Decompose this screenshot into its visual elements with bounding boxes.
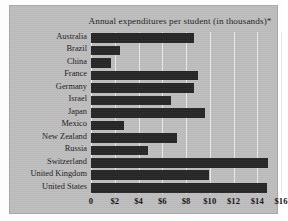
x-tick-label: 0 [89,196,93,206]
bar [91,133,177,143]
bar [91,146,148,156]
bar-row: Mexico [91,119,281,131]
category-label: United Kingdom [30,168,87,180]
category-label: United States [42,181,87,193]
bar [91,33,194,43]
bar-row: Brazil [91,44,281,56]
category-label: Australia [56,31,87,43]
chart-figure: Annual expenditures per student (in thou… [0,0,285,221]
category-label: France [64,68,87,80]
category-label: Israel [68,93,87,105]
x-tick-label: $12 [227,196,240,206]
bar-row: Australia [91,32,281,44]
category-label: Mexico [61,118,87,130]
bar [91,170,209,180]
category-label: Japan [68,106,87,118]
category-label: China [67,56,87,68]
bar [91,71,198,81]
plot-area: AustraliaBrazilChinaFranceGermanyIsraelJ… [91,32,281,194]
category-label: Switzerland [47,156,87,168]
category-label: Brazil [67,43,87,55]
gridline-16 [281,32,282,194]
bar [91,46,120,56]
bar-row: China [91,57,281,69]
bar [91,121,124,131]
x-tick-label: $8 [182,196,191,206]
bar [91,108,205,118]
bar [91,183,267,193]
x-tick-label: $16 [275,196,285,206]
bar [91,96,171,106]
x-tick-label: $4 [134,196,143,206]
bar-row: Russia [91,144,281,156]
bar [91,158,268,168]
chart-title: Annual expenditures per student (in thou… [70,16,285,26]
x-tick-label: $10 [203,196,216,206]
bar-row: Switzerland [91,157,281,169]
bar [91,83,194,93]
bar [91,58,111,68]
bar-row: United States [91,182,281,194]
bar-row: New Zealand [91,132,281,144]
x-tick-label: $14 [251,196,264,206]
bar-row: Japan [91,107,281,119]
category-label: Germany [56,81,87,93]
x-tick-label: $6 [158,196,167,206]
category-label: New Zealand [42,131,87,143]
category-label: Russia [65,143,87,155]
x-axis: 0$2$4$6$8$10$12$14$16 [91,196,281,212]
x-tick-label: $2 [110,196,119,206]
bar-row: United Kingdom [91,169,281,181]
chart-panel: Annual expenditures per student (in thou… [9,5,278,214]
bar-row: Germany [91,82,281,94]
bar-row: France [91,69,281,81]
bar-row: Israel [91,94,281,106]
